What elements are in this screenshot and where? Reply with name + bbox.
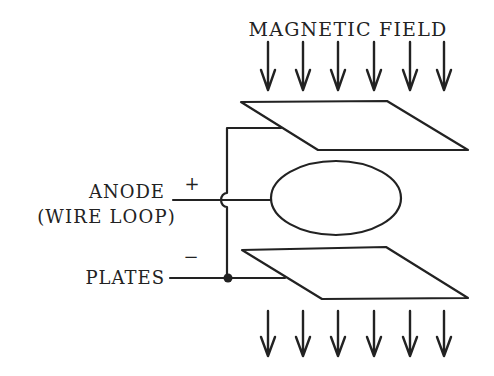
anode-sublabel: (WIRE LOOP) — [37, 206, 176, 227]
anode-label: ANODE — [88, 181, 165, 202]
down-arrow-icon — [403, 311, 417, 356]
down-arrow-icon — [367, 42, 381, 90]
plus-sign: + — [184, 173, 199, 194]
bottom-plate — [242, 247, 468, 299]
junction-dot — [224, 274, 233, 283]
plates-label: PLATES — [85, 267, 165, 288]
bottom-field-arrows — [261, 311, 451, 356]
down-arrow-icon — [296, 42, 310, 90]
minus-sign: − — [183, 246, 198, 267]
down-arrow-icon — [261, 42, 275, 90]
down-arrow-icon — [331, 311, 345, 356]
down-arrow-icon — [261, 311, 275, 356]
down-arrow-icon — [437, 42, 451, 90]
down-arrow-icon — [367, 311, 381, 356]
magnetic-field-label: MAGNETIC FIELD — [249, 18, 448, 40]
down-arrow-icon — [331, 42, 345, 90]
top-plate — [241, 101, 468, 150]
down-arrow-icon — [403, 42, 417, 90]
anode-wire-loop — [271, 161, 401, 235]
magnetic-field-diagram: MAGNETIC FIELD + ANODE (WIRE LOOP) − PLA… — [0, 0, 494, 376]
top-field-arrows — [261, 42, 451, 90]
down-arrow-icon — [296, 311, 310, 356]
down-arrow-icon — [437, 311, 451, 356]
